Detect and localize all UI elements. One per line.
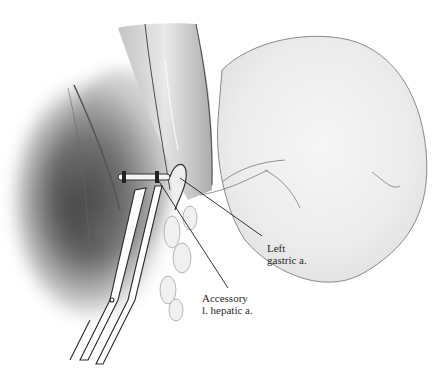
label-accessory-left-hepatic-artery: Accessory l. hepatic a.	[202, 292, 253, 316]
omentum	[160, 206, 197, 321]
stomach	[217, 36, 426, 282]
label-left-gastric-artery: Left gastric a.	[267, 242, 307, 266]
surgical-illustration	[0, 0, 448, 384]
